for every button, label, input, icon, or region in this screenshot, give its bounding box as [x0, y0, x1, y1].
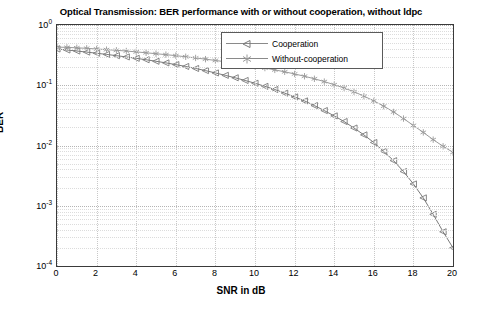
gridline-horizontal-major	[57, 146, 453, 148]
gridline-horizontal-minor	[57, 230, 453, 232]
gridline-horizontal-minor	[57, 177, 453, 179]
gridline-horizontal-minor	[57, 169, 453, 171]
gridline-horizontal-minor	[57, 88, 453, 90]
marker-asterisk-icon	[322, 78, 328, 84]
gridline-horizontal-minor	[57, 151, 453, 153]
gridline-horizontal-minor	[57, 164, 453, 166]
x-tick-label: 0	[53, 268, 58, 278]
gridline-horizontal-minor	[57, 209, 453, 211]
x-tick-label: 2	[93, 268, 98, 278]
x-tick-label: 18	[407, 268, 417, 278]
gridline-horizontal-major	[57, 266, 453, 267]
y-tick-label: 10-1	[36, 78, 52, 90]
chart-legend: Cooperation Without-cooperation	[221, 32, 383, 69]
x-tick-label: 4	[133, 268, 138, 278]
gridline-horizontal-minor	[57, 159, 453, 161]
marker-asterisk-icon	[430, 136, 436, 142]
gridline-horizontal-major	[57, 25, 453, 27]
gridline-horizontal-minor	[57, 237, 453, 239]
gridline-vertical	[453, 25, 454, 266]
chart-title: Optical Transmission: BER performance wi…	[0, 6, 482, 17]
legend-marker-triangle-left-icon	[226, 37, 268, 51]
y-tick-label: 100	[38, 18, 52, 30]
gridline-horizontal-minor	[57, 212, 453, 214]
legend-item-cooperation[interactable]: Cooperation	[226, 36, 380, 51]
legend-label-cooperation: Cooperation	[272, 39, 318, 49]
gridline-horizontal-minor	[57, 219, 453, 221]
x-tick-label: 12	[289, 268, 299, 278]
legend-marker-asterisk-icon	[226, 52, 268, 66]
gridline-horizontal-minor	[57, 188, 453, 190]
gridline-horizontal-minor	[57, 109, 453, 111]
gridline-horizontal-minor	[57, 95, 453, 97]
gridline-horizontal-minor	[57, 117, 453, 119]
gridline-horizontal-minor	[57, 99, 453, 101]
marker-asterisk-icon	[421, 129, 427, 135]
y-axis-label: BER	[0, 112, 5, 133]
x-tick-label: 8	[212, 268, 217, 278]
gridline-horizontal-minor	[57, 155, 453, 157]
legend-item-without-cooperation[interactable]: Without-cooperation	[226, 51, 380, 66]
x-axis-label: SNR in dB	[0, 285, 482, 296]
gridline-horizontal-minor	[57, 91, 453, 93]
x-tick-label: 10	[249, 268, 259, 278]
gridline-horizontal-minor	[57, 215, 453, 217]
gridline-horizontal-major	[57, 206, 453, 208]
gridline-horizontal-minor	[57, 148, 453, 150]
gridline-horizontal-minor	[57, 103, 453, 105]
x-tick-label: 14	[328, 268, 338, 278]
y-tick-label: 10-4	[36, 259, 52, 271]
gridline-horizontal-minor	[57, 224, 453, 226]
gridline-horizontal-minor	[57, 127, 453, 129]
x-tick-label: 16	[368, 268, 378, 278]
gridline-horizontal-minor	[57, 248, 453, 250]
gridline-horizontal-minor	[57, 28, 453, 30]
legend-label-without-cooperation: Without-cooperation	[272, 54, 348, 64]
y-tick-label: 10-2	[36, 139, 52, 151]
chart-figure: Optical Transmission: BER performance wi…	[0, 0, 482, 316]
x-tick-label: 6	[172, 268, 177, 278]
x-tick-label: 20	[447, 268, 457, 278]
y-tick-label: 10-3	[36, 199, 52, 211]
gridline-horizontal-major	[57, 85, 453, 87]
